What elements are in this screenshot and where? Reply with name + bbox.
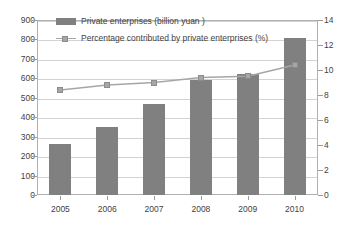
x-axis-label-2008: 2008 <box>178 205 224 214</box>
x-axis-tick <box>201 196 202 200</box>
x-axis-tick <box>154 196 155 200</box>
y-axis-left-tick-label: 900 <box>5 16 35 25</box>
y-axis-right-tick-label: 4 <box>324 141 352 150</box>
y-axis-right-tick <box>318 170 323 171</box>
y-axis-right-tick <box>318 145 323 146</box>
y-axis-left-tick-label: 200 <box>5 152 35 161</box>
y-axis-left-tick-label: 500 <box>5 94 35 103</box>
y-axis-right-tick <box>318 120 323 121</box>
y-axis-right-tick <box>318 20 323 21</box>
x-axis-tick <box>107 196 108 200</box>
y-axis-right-tick-label: 14 <box>324 16 352 25</box>
line-marker-2006 <box>104 82 110 88</box>
y-axis-right-tick <box>318 45 323 46</box>
x-axis-label-2009: 2009 <box>225 205 271 214</box>
x-axis-tick <box>60 196 61 200</box>
x-axis-label-2010: 2010 <box>272 205 318 214</box>
legend-item-line: Percentage contributed by private enterp… <box>56 31 268 45</box>
y-axis-left-tick-label: 300 <box>5 133 35 142</box>
line-marker-2005 <box>57 87 63 93</box>
chart-legend: Private enterprises (billion yuan ) Perc… <box>56 14 268 48</box>
legend-label-line: Percentage contributed by private enterp… <box>81 34 268 43</box>
y-axis-left-tick-label: 700 <box>5 55 35 64</box>
bar-swatch-icon <box>56 18 76 25</box>
y-axis-right-tick-label: 6 <box>324 116 352 125</box>
y-axis-right-tick-label: 2 <box>324 166 352 175</box>
y-axis-right-tick <box>318 95 323 96</box>
chart-container: 0100200300400500600700800900024681012142… <box>0 0 357 229</box>
line-marker-2007 <box>151 80 157 86</box>
line-marker-2008 <box>198 75 204 81</box>
legend-item-bar: Private enterprises (billion yuan ) <box>56 14 268 28</box>
line-marker-2010 <box>292 62 298 68</box>
y-axis-left-tick-label: 800 <box>5 35 35 44</box>
line-marker-2009 <box>245 73 251 79</box>
legend-label-bar: Private enterprises (billion yuan ) <box>81 17 205 26</box>
x-axis-label-2005: 2005 <box>37 205 83 214</box>
y-axis-right-tick-label: 10 <box>324 66 352 75</box>
y-axis-right-tick-label: 12 <box>324 41 352 50</box>
y-axis-left-tick-label: 0 <box>5 191 35 200</box>
y-axis-right-tick-label: 0 <box>324 191 352 200</box>
y-axis-left-tick-label: 100 <box>5 172 35 181</box>
y-axis-right-tick <box>318 70 323 71</box>
x-axis-tick <box>248 196 249 200</box>
y-axis-right-tick <box>318 195 323 196</box>
x-axis-tick <box>295 196 296 200</box>
y-axis-right-tick-label: 8 <box>324 91 352 100</box>
line-marker-swatch-icon <box>56 34 76 43</box>
x-axis-label-2007: 2007 <box>131 205 177 214</box>
y-axis-left-tick-label: 600 <box>5 74 35 83</box>
y-axis-left-tick-label: 400 <box>5 113 35 122</box>
y-axis-left-tick <box>32 195 37 196</box>
x-axis-label-2006: 2006 <box>84 205 130 214</box>
